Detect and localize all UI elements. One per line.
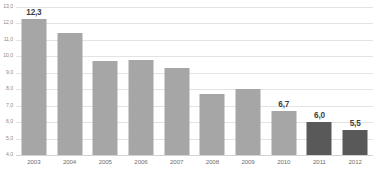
y-axis-tick-label: 8,0 bbox=[6, 87, 16, 92]
y-axis-tick-label: 5,0 bbox=[6, 136, 16, 141]
bar-group: 6,0 bbox=[302, 7, 338, 155]
bar-value-label: 6,0 bbox=[314, 111, 325, 120]
y-axis-tick-label: 13,0 bbox=[3, 4, 16, 9]
x-axis-tick-label: 2005 bbox=[99, 158, 112, 165]
plot-area: 13,012,011,010,09,08,07,06,05,04,0 12,36… bbox=[16, 7, 373, 155]
bar bbox=[271, 111, 296, 155]
bar bbox=[128, 60, 153, 155]
x-axis-tick-label: 2006 bbox=[134, 158, 147, 165]
x-axis-tick-label: 2008 bbox=[206, 158, 219, 165]
bar bbox=[164, 68, 189, 155]
y-axis-tick-label: 11,0 bbox=[4, 37, 16, 42]
y-axis-tick-label: 4,0 bbox=[6, 152, 16, 157]
bar-group bbox=[230, 7, 266, 155]
bar-value-label: 5,5 bbox=[350, 119, 361, 128]
bar bbox=[21, 19, 46, 155]
y-axis-tick-label: 12,0 bbox=[3, 21, 16, 26]
bar-chart: 13,012,011,010,09,08,07,06,05,04,0 12,36… bbox=[0, 0, 373, 176]
x-axis-tick-label: 2007 bbox=[170, 158, 183, 165]
bar-series: 12,36,76,05,5 bbox=[16, 7, 373, 155]
bar bbox=[307, 122, 332, 155]
x-axis-labels: 2003200420052006200720082009201020112012 bbox=[16, 158, 373, 172]
bar-group bbox=[159, 7, 195, 155]
bar bbox=[200, 94, 225, 155]
y-axis-tick-label: 9,0 bbox=[6, 70, 16, 75]
y-axis-tick-label: 6,0 bbox=[6, 120, 16, 125]
bar bbox=[236, 89, 261, 155]
x-axis-tick-label: 2010 bbox=[277, 158, 290, 165]
y-axis-tick-label: 10,0 bbox=[3, 54, 16, 59]
bar-group: 12,3 bbox=[16, 7, 52, 155]
bar bbox=[57, 33, 82, 155]
bar-value-label: 12,3 bbox=[26, 8, 41, 17]
x-axis-tick-label: 2009 bbox=[241, 158, 254, 165]
bar bbox=[93, 61, 118, 155]
bar-group: 5,5 bbox=[337, 7, 373, 155]
x-axis-tick-label: 2011 bbox=[313, 158, 326, 165]
bar-value-label: 6,7 bbox=[278, 100, 289, 109]
x-axis-tick-label: 2003 bbox=[27, 158, 40, 165]
bar-group bbox=[87, 7, 123, 155]
x-axis-tick-label: 2012 bbox=[349, 158, 362, 165]
bar bbox=[343, 130, 368, 155]
bar-group bbox=[52, 7, 88, 155]
y-axis-tick-label: 7,0 bbox=[6, 103, 16, 108]
x-axis-tick-label: 2004 bbox=[63, 158, 76, 165]
bar-group: 6,7 bbox=[266, 7, 302, 155]
bar-group bbox=[195, 7, 231, 155]
bar-group bbox=[123, 7, 159, 155]
gridline: 4,0 bbox=[16, 155, 373, 156]
